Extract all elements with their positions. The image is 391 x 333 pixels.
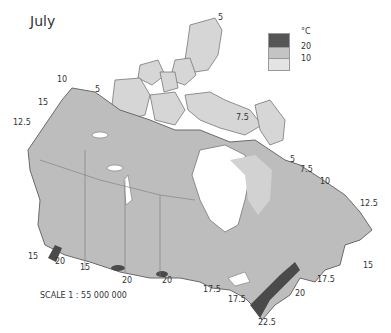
isotherm-label: 15 — [363, 262, 373, 270]
isotherm-label: 20 — [55, 258, 65, 266]
legend-label-20: 20 — [301, 43, 311, 51]
isotherm-label: 5 — [218, 14, 223, 22]
isotherm-label: 22.5 — [258, 319, 276, 327]
isotherm-label: 7.5 — [300, 166, 313, 174]
isotherm-label: 12.5 — [360, 200, 378, 208]
legend-label-10: 10 — [301, 55, 311, 63]
isotherm-label: 15 — [80, 264, 90, 272]
isotherm-label: 17.5 — [317, 276, 335, 284]
legend-swatch-below-10 — [268, 58, 290, 71]
isotherm-label: 5 — [290, 156, 295, 164]
legend-swatch-20plus — [268, 33, 290, 48]
isotherm-label: 17.5 — [228, 296, 246, 304]
isotherm-label: 12.5 — [13, 119, 31, 127]
isotherm-label: 10 — [57, 76, 67, 84]
isotherm-label: 20 — [122, 277, 132, 285]
isotherm-label: 15 — [38, 99, 48, 107]
legend-unit: °C — [301, 28, 311, 36]
isotherm-label: 20 — [295, 290, 305, 298]
mainland — [28, 88, 372, 320]
isotherm-label: 17.5 — [203, 286, 221, 294]
isotherm-label: 20 — [162, 277, 172, 285]
isotherm-label: 7.5 — [236, 114, 249, 122]
isotherm-label: 15 — [28, 253, 38, 261]
isotherm-label: 10 — [320, 178, 330, 186]
map-scale: SCALE 1 : 55 000 000 — [40, 291, 127, 300]
isotherm-label: 5 — [95, 86, 100, 94]
